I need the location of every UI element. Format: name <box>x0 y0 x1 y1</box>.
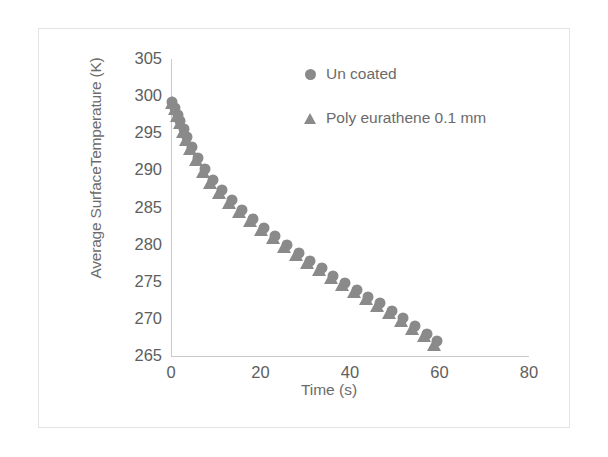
y-tick-label: 270 <box>134 309 162 328</box>
data-point-circle <box>293 247 304 258</box>
data-point-triangle <box>254 223 268 236</box>
data-point-triangle <box>335 278 349 291</box>
y-tick-label: 275 <box>134 272 162 291</box>
data-point-circle <box>374 298 385 309</box>
data-point-triangle <box>189 153 203 166</box>
data-point-circle <box>421 328 432 339</box>
triangle-marker-icon <box>301 113 319 124</box>
data-point-circle <box>340 278 351 289</box>
data-point-circle <box>398 313 409 324</box>
data-point-triangle <box>289 248 303 261</box>
data-point-circle <box>237 204 248 215</box>
y-tick-label: 300 <box>134 86 162 105</box>
triangle-marker-glyph <box>304 113 316 124</box>
data-point-circle <box>328 270 339 281</box>
data-point-circle <box>305 255 316 266</box>
x-axis-title: Time (s) <box>39 381 571 399</box>
data-point-circle <box>281 239 292 250</box>
data-point-triangle <box>222 196 236 209</box>
data-point-circle <box>186 141 197 152</box>
data-point-triangle <box>170 109 184 122</box>
data-point-triangle <box>243 214 257 227</box>
data-point-circle <box>217 185 228 196</box>
data-point-triangle <box>405 322 419 335</box>
data-point-triangle <box>312 263 326 276</box>
data-point-triangle <box>427 338 441 351</box>
x-tick-label: 60 <box>430 363 448 382</box>
data-point-triangle <box>277 240 291 253</box>
data-point-triangle <box>176 124 190 137</box>
data-point-triangle <box>173 116 187 129</box>
chart-legend: Un coatedPoly eurathene 0.1 mm <box>301 65 556 153</box>
x-tick-label: 0 <box>166 363 175 382</box>
y-axis-line <box>171 59 172 356</box>
data-point-triangle <box>266 231 280 244</box>
data-point-circle <box>247 213 258 224</box>
data-point-circle <box>192 152 203 163</box>
data-point-circle <box>363 291 374 302</box>
y-axis-title: Average SurfaceTemperature (K) <box>87 43 105 293</box>
figure-root: Average SurfaceTemperature (K) Time (s) … <box>0 0 608 457</box>
data-point-circle <box>270 231 281 242</box>
data-point-circle <box>226 195 237 206</box>
data-point-triangle <box>370 299 384 312</box>
legend-entry: Poly eurathene 0.1 mm <box>301 109 556 127</box>
y-tick-label: 265 <box>134 346 162 365</box>
data-point-triangle <box>232 205 246 218</box>
data-point-circle <box>167 97 178 108</box>
data-point-triangle <box>179 133 193 146</box>
data-point-triangle <box>324 271 338 284</box>
data-point-triangle <box>300 256 314 269</box>
circle-marker-icon <box>301 69 319 80</box>
data-point-circle <box>431 336 442 347</box>
data-point-triangle <box>417 329 431 342</box>
data-point-triangle <box>347 285 361 298</box>
data-point-circle <box>175 116 186 127</box>
data-point-triangle <box>394 314 408 327</box>
data-point-circle <box>208 175 219 186</box>
data-point-triangle <box>359 292 373 305</box>
x-tick-label: 20 <box>251 363 269 382</box>
data-point-triangle <box>212 186 226 199</box>
x-axis-title-text: Time (s) <box>301 381 357 398</box>
data-point-circle <box>409 320 420 331</box>
data-point-circle <box>351 284 362 295</box>
y-tick-label: 295 <box>134 123 162 142</box>
data-point-circle <box>259 222 270 233</box>
x-axis-line <box>171 356 529 357</box>
x-tick-label: 80 <box>520 363 538 382</box>
data-point-triangle <box>196 165 210 178</box>
data-point-circle <box>200 163 211 174</box>
y-tick-label: 285 <box>134 198 162 217</box>
legend-entry: Un coated <box>301 65 556 83</box>
data-point-triangle <box>168 102 182 115</box>
y-tick-label: 290 <box>134 160 162 179</box>
data-point-circle <box>386 305 397 316</box>
data-point-triangle <box>203 176 217 189</box>
y-tick-label: 280 <box>134 235 162 254</box>
legend-label: Poly eurathene 0.1 mm <box>326 109 486 127</box>
x-tick-label: 40 <box>341 363 359 382</box>
data-point-triangle <box>183 142 197 155</box>
legend-label: Un coated <box>326 65 397 83</box>
chart-frame: Average SurfaceTemperature (K) Time (s) … <box>38 28 570 428</box>
data-point-circle <box>316 263 327 274</box>
data-point-circle <box>178 123 189 134</box>
data-point-circle <box>182 131 193 142</box>
data-point-circle <box>172 109 183 120</box>
circle-marker-glyph <box>305 69 316 80</box>
y-tick-label: 305 <box>134 49 162 68</box>
data-point-triangle <box>382 306 396 319</box>
